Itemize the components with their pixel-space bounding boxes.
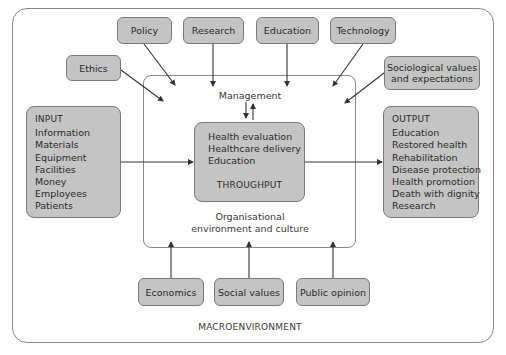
- input-item: Facilities: [35, 164, 112, 176]
- output-item: Rehabilitation: [392, 152, 470, 164]
- policy-box: Policy: [117, 17, 172, 44]
- input-item: Information: [35, 127, 112, 139]
- arrow-sociological: [345, 73, 384, 103]
- input-item: Materials: [35, 139, 112, 151]
- organisational-environment-label: Organisational environment and culture: [170, 211, 330, 235]
- ethics-label: Ethics: [79, 63, 108, 74]
- output-item: Death with dignity: [392, 188, 470, 200]
- macroenvironment-label: MACROENVIRONMENT: [190, 321, 310, 333]
- education-label: Education: [264, 25, 311, 36]
- technology-label: Technology: [336, 25, 389, 36]
- sociological-values-box: Sociological values and expectations: [384, 56, 480, 90]
- arrow-technology: [333, 44, 363, 86]
- policy-label: Policy: [131, 25, 158, 36]
- sociological-label-line1: Sociological values: [387, 62, 477, 73]
- ethics-box: Ethics: [66, 55, 121, 81]
- systems-diagram: Policy Research Education Technology Eth…: [0, 0, 506, 355]
- throughput-item: Healthcare delivery: [208, 143, 304, 155]
- education-box: Education: [256, 17, 319, 44]
- research-label: Research: [192, 25, 236, 36]
- output-item: Restored health: [392, 139, 470, 151]
- output-box: OUTPUT Education Restored health Rehabil…: [383, 106, 479, 218]
- technology-box: Technology: [330, 17, 396, 44]
- input-item: Patients: [35, 200, 112, 212]
- social-values-label: Social values: [218, 287, 280, 298]
- public-opinion-label: Public opinion: [300, 287, 366, 298]
- public-opinion-box: Public opinion: [296, 278, 370, 306]
- research-box: Research: [183, 17, 244, 44]
- output-title: OUTPUT: [392, 113, 470, 125]
- economics-label: Economics: [146, 287, 197, 298]
- throughput-item: Education: [208, 155, 304, 167]
- organisational-label-line1: Organisational: [170, 211, 330, 223]
- sociological-label-line2: and expectations: [391, 73, 473, 84]
- arrow-policy: [144, 44, 175, 85]
- arrow-ethics: [121, 70, 163, 101]
- throughput-item: Health evaluation: [208, 131, 304, 143]
- input-title: INPUT: [35, 113, 112, 125]
- economics-box: Economics: [138, 278, 204, 306]
- input-item: Equipment: [35, 152, 112, 164]
- output-item: Education: [392, 127, 470, 139]
- input-item: Employees: [35, 188, 112, 200]
- output-item: Health promotion: [392, 176, 470, 188]
- social-values-box: Social values: [214, 278, 284, 306]
- input-item: Money: [35, 176, 112, 188]
- input-box: INPUT Information Materials Equipment Fa…: [26, 106, 121, 218]
- throughput-title: THROUGHPUT: [195, 179, 304, 191]
- throughput-box: Health evaluation Healthcare delivery Ed…: [194, 122, 305, 202]
- output-item: Research: [392, 200, 470, 212]
- organisational-label-line2: environment and culture: [170, 223, 330, 235]
- management-label: Management: [210, 90, 290, 102]
- output-item: Disease protection: [392, 164, 470, 176]
